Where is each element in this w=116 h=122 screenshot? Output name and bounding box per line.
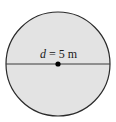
diameter-label: d = 5 m: [40, 47, 78, 61]
center-dot: [55, 61, 60, 66]
diameter-value: = 5 m: [46, 47, 78, 61]
circle-diagram: d = 5 m: [0, 0, 116, 122]
